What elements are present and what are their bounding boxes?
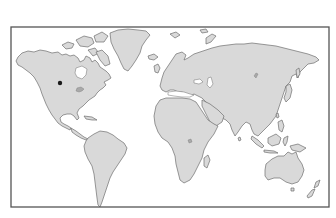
new-zealand [307, 189, 315, 198]
taiwan [276, 113, 279, 118]
sakhalin [296, 68, 300, 78]
borneo [268, 134, 281, 146]
sulawesi [283, 136, 288, 146]
lake-victoria [188, 139, 192, 143]
sumatra [251, 136, 264, 148]
arctic-islands [62, 42, 74, 49]
caribbean-cuba [84, 116, 97, 120]
location-marker[interactable] [58, 81, 62, 85]
world-map-svg [0, 0, 336, 218]
tasmania [291, 188, 294, 191]
sri-lanka [238, 137, 241, 141]
australia [265, 152, 304, 184]
iceland [148, 54, 158, 60]
south-america [84, 131, 127, 207]
greenland [110, 29, 150, 71]
madagascar [204, 155, 210, 168]
world-map [0, 0, 336, 218]
north-america [16, 50, 111, 130]
british-isles [154, 64, 160, 73]
arctic-islands [76, 36, 94, 47]
central-america [71, 128, 88, 140]
new-guinea [290, 144, 306, 152]
philippines [278, 120, 284, 132]
novaya-zemlya [206, 34, 216, 44]
svalbard [170, 32, 180, 38]
java [264, 150, 278, 153]
new-zealand [314, 180, 320, 188]
arctic-islands [94, 32, 108, 42]
franz-josef [200, 29, 208, 33]
